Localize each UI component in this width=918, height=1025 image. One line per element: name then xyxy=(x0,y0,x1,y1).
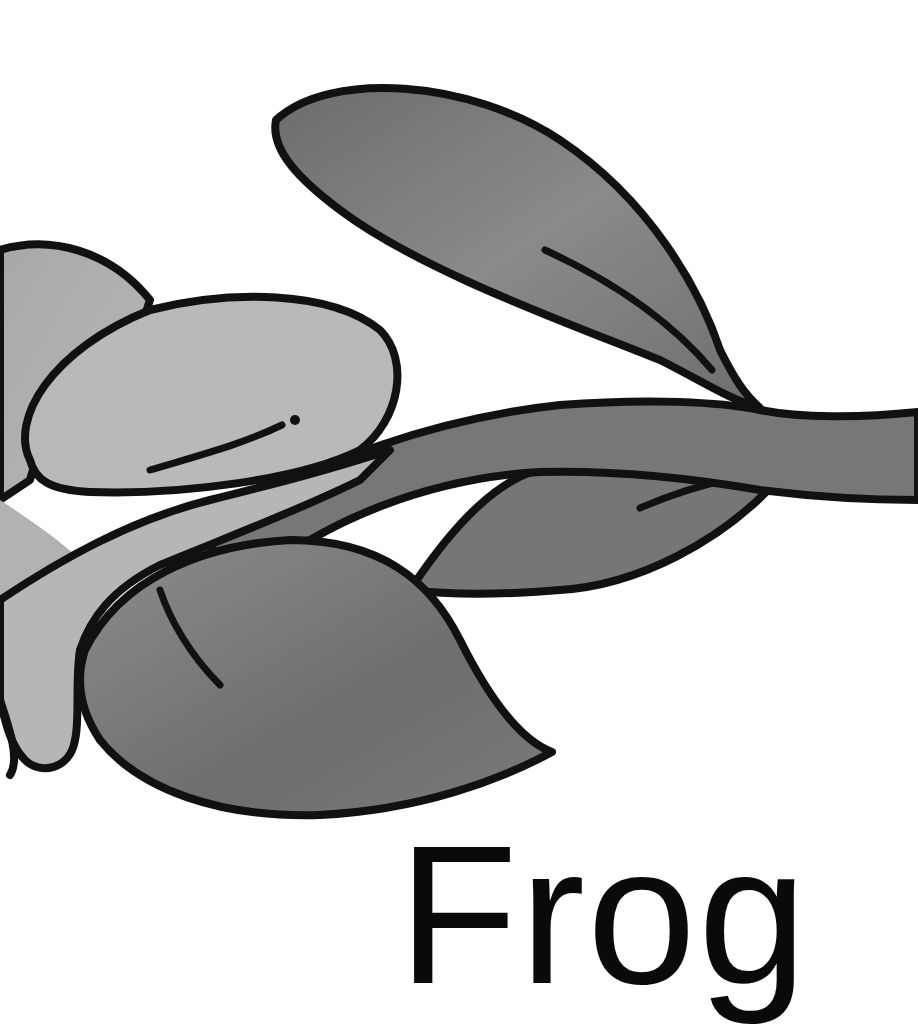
caption-text: Frog xyxy=(398,818,809,1014)
